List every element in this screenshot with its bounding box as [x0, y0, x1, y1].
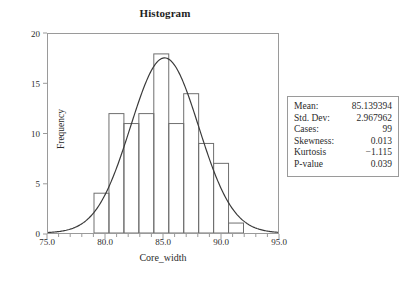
stat-label-std-dev: Std. Dev:	[294, 113, 330, 125]
stat-label-p-value: P-value	[294, 159, 323, 171]
plot-area: Frequency	[47, 33, 279, 234]
stat-value-cases: 99	[383, 124, 393, 136]
histogram-bar	[94, 193, 109, 233]
chart-title: Histogram	[45, 7, 285, 19]
histogram-bar	[109, 114, 124, 233]
stat-row-kurtosis: Kurtosis −1.115	[294, 147, 392, 159]
statistics-box: Mean: 85.139394 Std. Dev: 2.967962 Cases…	[287, 96, 399, 177]
stat-value-kurtosis: −1.115	[366, 147, 392, 159]
x-tick-label-75: 75.0	[27, 238, 67, 247]
y-tick-label-15: 15	[14, 80, 40, 89]
x-tick-label-90: 90.0	[201, 238, 241, 247]
histogram-bar	[169, 124, 184, 233]
stat-row-std-dev: Std. Dev: 2.967962	[294, 113, 392, 125]
normal-curve-icon	[48, 58, 278, 233]
histogram-bar	[199, 143, 214, 233]
histogram-bar	[184, 94, 199, 233]
stat-row-p-value: P-value 0.039	[294, 159, 392, 171]
y-tick-label-20: 20	[14, 30, 40, 39]
stat-row-cases: Cases: 99	[294, 124, 392, 136]
plot-svg	[48, 34, 278, 233]
histogram-figure: Histogram 20 15 10 5 0 75.0 80.0 85.0 90…	[0, 0, 406, 281]
stat-label-kurtosis: Kurtosis	[294, 147, 326, 159]
stat-label-mean: Mean:	[294, 101, 318, 113]
stat-row-skewness: Skewness: 0.013	[294, 136, 392, 148]
stat-label-skewness: Skewness:	[294, 136, 334, 148]
stat-row-mean: Mean: 85.139394	[294, 101, 392, 113]
histogram-bar	[229, 223, 244, 233]
histogram-bar	[154, 54, 169, 233]
stat-label-cases: Cases:	[294, 124, 319, 136]
stat-value-mean: 85.139394	[352, 101, 392, 113]
histogram-bar	[139, 114, 154, 233]
histogram-bars	[94, 54, 244, 233]
stat-value-p-value: 0.039	[371, 159, 392, 171]
stat-value-skewness: 0.013	[371, 136, 392, 148]
y-tick-label-10: 10	[14, 130, 40, 139]
x-tick-label-85: 85.0	[143, 238, 183, 247]
y-tick-label-5: 5	[14, 180, 40, 189]
stat-value-std-dev: 2.967962	[356, 113, 392, 125]
x-tick-label-80: 80.0	[85, 238, 125, 247]
x-axis-title: Core_width	[47, 252, 279, 263]
x-tick-label-95: 95.0	[259, 238, 299, 247]
